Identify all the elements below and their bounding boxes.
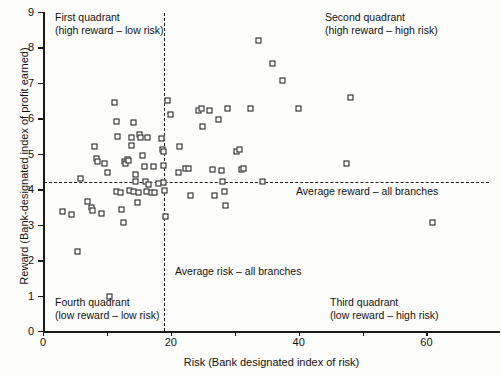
- data-point: [126, 187, 132, 193]
- data-point: [240, 166, 246, 172]
- data-point: [91, 144, 97, 150]
- data-point: [128, 142, 134, 148]
- data-point: [78, 175, 84, 181]
- data-point: [207, 107, 213, 113]
- x-axis-tick-label: 60: [420, 336, 432, 348]
- data-point: [121, 158, 127, 164]
- second-quadrant-label: Second quadrant (high reward – high risk…: [325, 11, 438, 37]
- data-point: [175, 170, 181, 176]
- data-point: [125, 157, 131, 163]
- data-point: [114, 134, 120, 140]
- data-point: [141, 164, 147, 170]
- data-point: [256, 38, 262, 44]
- y-axis-tick: [38, 12, 43, 13]
- data-point: [89, 205, 95, 211]
- x-axis-tick-label: 0: [40, 336, 46, 348]
- data-point: [69, 212, 75, 218]
- third-quadrant-label: Third quadrant (low reward – high risk): [330, 296, 439, 322]
- data-point: [135, 189, 141, 195]
- data-point: [134, 200, 140, 206]
- x-axis-tick-label: 40: [293, 336, 305, 348]
- data-point: [151, 164, 157, 170]
- data-point: [188, 192, 194, 198]
- data-point: [105, 170, 111, 176]
- data-point: [131, 119, 137, 125]
- data-point: [218, 167, 224, 173]
- data-point: [344, 160, 350, 166]
- data-point: [211, 193, 217, 199]
- first-quadrant-label: First quadrant (high reward – low risk): [55, 11, 164, 37]
- second-quadrant-label-line2: (high reward – high risk): [325, 24, 438, 36]
- data-point: [152, 189, 158, 195]
- y-axis-tick: [38, 331, 43, 332]
- y-axis-tick: [38, 189, 43, 190]
- y-axis-tick: [38, 154, 43, 155]
- y-axis-tick: [38, 225, 43, 226]
- average-reward-reference-line: [44, 182, 489, 183]
- data-point: [94, 158, 100, 164]
- fourth-quadrant-label-line1: Fourth quadrant: [55, 296, 130, 308]
- data-point: [221, 189, 227, 195]
- data-point: [176, 144, 182, 150]
- data-point: [183, 165, 189, 171]
- data-point: [59, 208, 65, 214]
- data-point: [143, 189, 149, 195]
- data-point: [94, 155, 100, 161]
- x-axis-tick: [363, 331, 364, 336]
- data-point: [129, 134, 135, 140]
- scatter-plot-figure: 02040600123456789 First quadrant (high r…: [0, 0, 501, 375]
- data-point: [210, 167, 216, 173]
- data-point: [234, 149, 240, 155]
- data-point: [270, 61, 276, 67]
- data-point: [295, 105, 301, 111]
- y-axis-tick: [38, 296, 43, 297]
- data-point: [225, 105, 231, 111]
- average-risk-reference-line: [164, 13, 165, 331]
- data-point: [137, 132, 143, 138]
- data-point: [165, 97, 171, 103]
- data-point: [123, 160, 129, 166]
- data-point: [199, 123, 205, 129]
- data-point: [280, 78, 286, 84]
- y-axis-tick-label: 9: [22, 6, 34, 18]
- data-point: [120, 220, 126, 226]
- y-axis-title: Reward (Bank-designated index of profit …: [18, 41, 30, 291]
- fourth-quadrant-label: Fourth quadrant (low reward – low risk): [55, 296, 159, 322]
- data-point: [98, 211, 104, 217]
- fourth-quadrant-label-line2: (low reward – low risk): [55, 309, 159, 321]
- y-axis-tick-label: 1: [22, 290, 34, 302]
- x-axis-title: Risk (Bank designated index of risk): [43, 356, 500, 368]
- data-point: [101, 160, 107, 166]
- average-reward-line-label: Average reward – all branches: [296, 185, 438, 198]
- data-point: [111, 99, 117, 105]
- data-point: [117, 190, 123, 196]
- third-quadrant-label-line1: Third quadrant: [330, 296, 398, 308]
- data-point: [185, 166, 191, 172]
- y-axis-tick: [38, 83, 43, 84]
- x-axis-tick: [107, 331, 108, 336]
- data-point: [139, 152, 145, 158]
- y-axis-tick: [38, 47, 43, 48]
- data-point: [198, 105, 204, 111]
- data-point: [138, 134, 144, 140]
- data-point: [125, 157, 131, 163]
- data-point: [90, 207, 96, 213]
- data-point: [195, 107, 201, 113]
- data-point: [113, 118, 119, 124]
- y-axis-line: [43, 12, 45, 332]
- x-axis-tick: [235, 331, 236, 336]
- data-point: [348, 94, 354, 100]
- x-axis-tick-label: 20: [165, 336, 177, 348]
- data-point: [429, 219, 435, 225]
- data-point: [114, 189, 120, 195]
- data-point: [144, 134, 150, 140]
- y-axis-tick-label: 0: [22, 325, 34, 337]
- first-quadrant-label-line2: (high reward – low risk): [55, 24, 164, 36]
- data-point: [236, 146, 242, 152]
- data-point: [132, 172, 138, 178]
- data-point: [148, 189, 154, 195]
- y-axis-tick: [38, 118, 43, 119]
- third-quadrant-label-line2: (low reward – high risk): [330, 309, 439, 321]
- data-point: [248, 106, 254, 112]
- data-point: [74, 248, 80, 254]
